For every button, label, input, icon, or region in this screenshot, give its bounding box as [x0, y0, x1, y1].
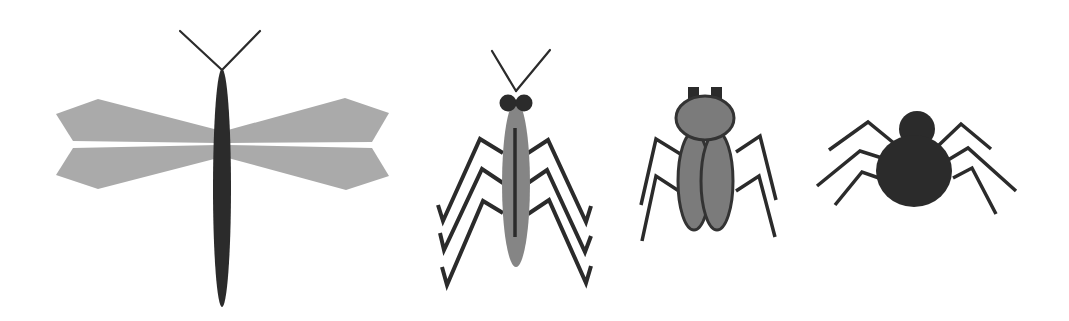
- insect-illustrations: Four simplified insect/arachnid illustra…: [0, 0, 1069, 321]
- mantis-icon: [438, 50, 591, 285]
- dragonfly-wing-lower-left: [56, 145, 218, 189]
- dragonfly-body: [213, 69, 231, 307]
- beetle-head: [676, 96, 734, 140]
- mantis-eye-right: [516, 95, 533, 112]
- dragonfly-wing-lower-right: [228, 145, 389, 190]
- beetle-icon: [641, 87, 776, 241]
- beetle-wing-right: [701, 132, 733, 230]
- mantis-antennae: [492, 50, 550, 91]
- dragonfly-icon: [56, 31, 389, 307]
- mantis-eye-left: [500, 95, 517, 112]
- dragonfly-wing-upper-left: [56, 99, 218, 143]
- spider-icon: [817, 111, 1016, 214]
- spider-body: [876, 135, 952, 207]
- dragonfly-wing-upper-right: [228, 98, 389, 143]
- dragonfly-antennae: [180, 31, 260, 70]
